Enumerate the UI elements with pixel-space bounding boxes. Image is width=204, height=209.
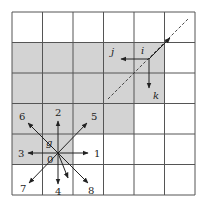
direction-label-6: 6 [19, 111, 25, 122]
direction-label-8: 8 [88, 185, 94, 196]
direction-label-1: 1 [94, 148, 100, 159]
label-i: i [141, 45, 144, 56]
shaded-cell [104, 43, 135, 74]
shaded-cell [43, 73, 74, 104]
shaded-cell [104, 104, 135, 135]
shaded-cell [73, 73, 104, 104]
shaded-cell [43, 43, 74, 74]
shaded-cell [12, 73, 43, 104]
shaded-cell [12, 104, 43, 135]
direction-label-2: 2 [55, 107, 61, 118]
shaded-cell [12, 134, 43, 165]
grid-lines [12, 12, 195, 195]
shaded-cell [73, 43, 104, 74]
direction-label-3: 3 [18, 148, 24, 159]
shaded-cell [12, 43, 43, 74]
shaded-cell [73, 104, 104, 135]
direction-label-7: 7 [20, 183, 26, 194]
grid-diagram: jik 12345678g0 [0, 0, 204, 209]
label-k: k [153, 90, 159, 101]
direction-label-5: 5 [91, 111, 97, 122]
label-g: g [46, 137, 52, 148]
direction-label-4: 4 [55, 186, 61, 197]
label-origin: 0 [47, 154, 53, 165]
